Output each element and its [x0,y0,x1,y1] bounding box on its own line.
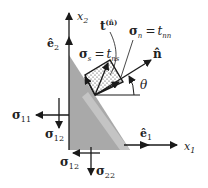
sigma11-label: σ11 [12,108,31,124]
sigma-n-equation: σn=tnn [129,24,172,40]
e1-label: ê1 [140,127,152,142]
x1-axis-label: x1 [184,140,195,155]
angle-arc [129,76,134,95]
normal-stress-leader [121,40,133,77]
sigma22-label: σ22 [96,164,115,180]
x2-axis-label: x2 [77,10,88,25]
sigma12-left-label: σ12 [45,127,64,143]
e2-label: ê2 [47,37,59,52]
angle-label: θ [140,78,148,92]
sigma-s-equation: σs=tns [79,47,120,63]
e2-arrowhead-icon [65,36,73,45]
left-face-stresses [36,98,69,128]
x1-axis [124,141,177,149]
normal-label: n̂ [153,47,162,61]
traction-label: t(n̂) [100,18,117,33]
sigma12-bottom-label: σ12 [60,155,79,171]
stress-traction-diagram: x2 ê2 ê1 x1 θ t(n̂) σn=tnn σs=tns n̂ [0,0,208,188]
e1-arrowhead-icon [140,141,150,149]
